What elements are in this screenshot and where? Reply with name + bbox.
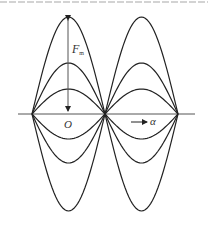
direction-label: α: [150, 115, 156, 127]
upper-lobe-curve: [105, 89, 178, 114]
force-label: Fm: [71, 42, 84, 56]
upper-lobe-curve: [105, 17, 178, 114]
wave-diagram: Fm O α: [0, 0, 208, 229]
origin-label: O: [64, 118, 72, 130]
